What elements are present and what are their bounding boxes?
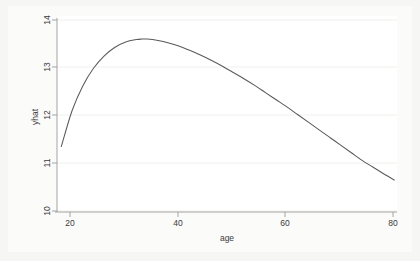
y-axis-title: yhat [30,108,40,125]
y-tick-label-12: 12 [42,110,52,120]
y-tick-label-14: 14 [42,15,52,25]
x-tick-label-80: 80 [388,218,398,228]
y-tick-label-11: 11 [42,158,52,167]
y-axis [52,18,57,212]
line-chart: 14 13 12 11 10 yhat 20 40 60 80 age [0,0,420,261]
x-tick-labels: 20 40 60 80 [65,218,398,228]
y-tick-label-10: 10 [42,206,52,216]
x-tick-label-40: 40 [173,218,183,228]
y-tick-label-13: 13 [42,62,52,72]
y-tick-labels: 14 13 12 11 10 [42,15,52,216]
x-axis-title: age [220,233,234,243]
series-line-yhat [61,39,394,180]
gridlines [57,20,397,211]
chart-screenshot: 14 13 12 11 10 yhat 20 40 60 80 age [0,0,420,261]
x-tick-label-20: 20 [65,218,75,228]
x-tick-label-60: 60 [280,218,290,228]
x-axis [55,212,397,217]
